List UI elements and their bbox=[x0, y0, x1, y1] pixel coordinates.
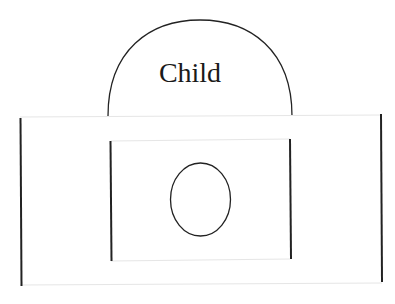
outer-right-wall bbox=[381, 114, 382, 282]
inner-bottom-line bbox=[111, 259, 290, 261]
outer-top-line bbox=[20, 115, 382, 117]
center-ellipse bbox=[171, 163, 231, 236]
inner-frame bbox=[111, 139, 292, 261]
inner-top-line bbox=[111, 139, 290, 141]
outer-bottom-line bbox=[20, 283, 382, 285]
child-dome: Child bbox=[108, 20, 292, 116]
inner-right-wall bbox=[290, 139, 291, 259]
outer-left-wall bbox=[21, 118, 22, 286]
child-label: Child bbox=[159, 57, 221, 88]
child-diagram: Child bbox=[0, 0, 395, 304]
inner-left-wall bbox=[111, 141, 112, 261]
